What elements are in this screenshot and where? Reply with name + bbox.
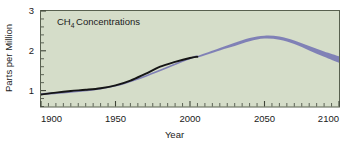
chart-title-suffix: Concentrations bbox=[76, 16, 140, 27]
x-tick-label: 2000 bbox=[179, 113, 200, 124]
ch4-concentrations-chart: 123 19001950200020502100 Year Parts per … bbox=[0, 0, 349, 142]
y-tick-label: 3 bbox=[29, 5, 34, 16]
y-tick-label: 2 bbox=[29, 45, 34, 56]
y-axis-title: Parts per Million bbox=[3, 24, 14, 92]
x-tick-label: 2100 bbox=[318, 113, 339, 124]
chart-title: CH4Concentrations bbox=[57, 16, 140, 29]
chart-title-prefix: CH bbox=[57, 16, 71, 27]
chart-figure: 123 19001950200020502100 Year Parts per … bbox=[0, 0, 349, 142]
x-tick-label: 2050 bbox=[254, 113, 275, 124]
x-tick-label: 1950 bbox=[105, 113, 126, 124]
chart-title-subscript: 4 bbox=[71, 22, 75, 29]
x-axis-title: Year bbox=[165, 129, 184, 140]
x-tick-label: 1900 bbox=[41, 113, 62, 124]
y-tick-label: 1 bbox=[29, 85, 34, 96]
